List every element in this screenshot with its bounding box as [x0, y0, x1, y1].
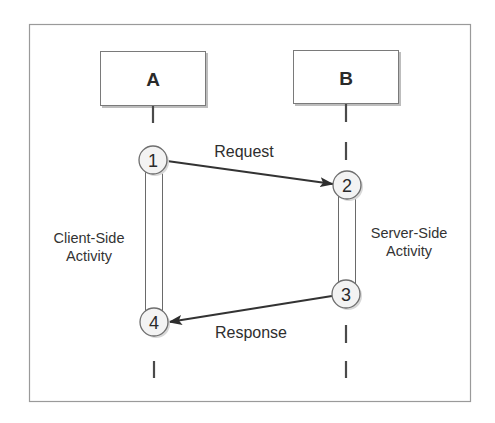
- step-number: 3: [341, 285, 351, 305]
- step-number: 4: [149, 313, 159, 333]
- participant-a: A: [101, 52, 209, 109]
- request-label: Request: [214, 143, 274, 160]
- sequence-diagram: A B Request Response 1 2 3: [0, 0, 495, 423]
- participant-label-a: A: [146, 69, 160, 90]
- label-line-1: Server-Side: [371, 225, 448, 241]
- response-label: Response: [215, 324, 287, 341]
- step-number: 2: [342, 176, 352, 196]
- participant-label-b: B: [339, 68, 353, 89]
- diagram-frame: [30, 25, 471, 402]
- activity-bar-server: [339, 196, 356, 284]
- label-line-1: Client-Side: [54, 230, 125, 246]
- label-line-2: Activity: [66, 248, 113, 264]
- label-line-2: Activity: [386, 243, 433, 259]
- participant-b: B: [294, 51, 402, 107]
- activity-bar-client: [146, 170, 163, 312]
- step-number: 1: [148, 151, 158, 171]
